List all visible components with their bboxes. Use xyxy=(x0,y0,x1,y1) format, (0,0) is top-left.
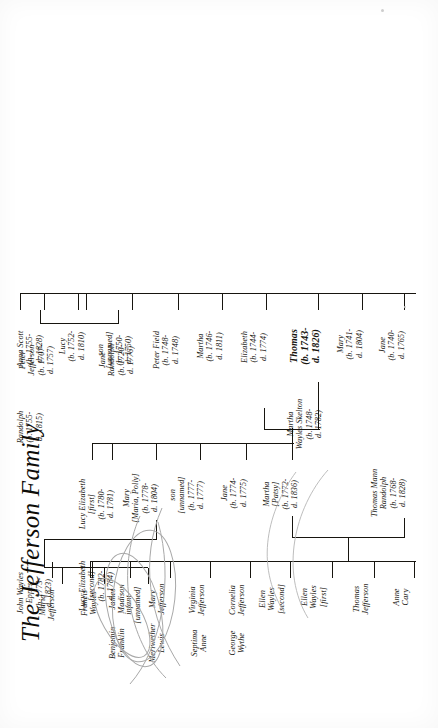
node-g2-thomas: Thomas (b. 1743- d. 1826) xyxy=(288,312,321,380)
marriage-stub-martha-wayles xyxy=(264,408,265,430)
scan-speck-2 xyxy=(404,306,406,308)
node-g3-jane: Jane (b. 1774- d. 1775) xyxy=(220,460,248,526)
node-g4r-ellen-wayles-second: Ellen Wayles [second] xyxy=(258,574,286,624)
scan-speck xyxy=(381,9,384,12)
sibling-spine-g4-randolph xyxy=(90,561,416,562)
tick-g4r-cornelia-jefferson xyxy=(250,562,251,578)
node-g2-anna-scott: Anna Scott (b. 1755- d. 1828) xyxy=(16,312,44,386)
node-g4e-infant: infant [unnamed] xyxy=(124,578,143,632)
tick-g3-jane xyxy=(246,444,247,460)
tick-g4r-ellen-wayles-second xyxy=(290,562,291,578)
tick-g3-lucy-elizabeth-second xyxy=(92,444,93,460)
node-g4r-meriwether-lewis: Meriwether Lewis xyxy=(148,614,167,672)
tick-g4r-thomas-jefferson xyxy=(374,562,375,578)
tick-g4r-james-madison xyxy=(130,562,131,578)
tick-g4r-septima-anne xyxy=(90,562,91,578)
node-g2-martha: Martha (b. 1746- d. 1811) xyxy=(196,312,224,380)
tick-g4r-meriwether-lewis xyxy=(52,562,53,578)
node-g3-martha-patsy: Martha [Patsy] (b. 1772- d. 1836) xyxy=(262,458,300,530)
sibling-spine-g2 xyxy=(20,293,416,294)
tick-g2-mary xyxy=(362,294,363,310)
node-g4e-francis-wayles: Francis Wayles xyxy=(80,578,99,628)
tick-g2-thomas xyxy=(318,294,319,310)
node-g2-son-unnamed: son [unnamed] (b. 1750- d. 1750) xyxy=(96,312,134,388)
marriage-drop-patsy-randolph xyxy=(348,538,349,562)
node-g2-peter-field: Peter Field (b. 1748- d. 1748) xyxy=(152,312,180,388)
tick-g4r-mary-jefferson xyxy=(170,562,171,578)
marriage-drop-g1 xyxy=(78,294,79,310)
marriage-stub-mary xyxy=(156,520,157,540)
node-thomas-mann-randolph: Thomas Mann Randolph (b. 1768- d. 1828) xyxy=(370,454,408,532)
tick-g2-son-unnamed xyxy=(132,294,133,310)
node-g4r-thomas-jefferson: Thomas Jefferson xyxy=(352,574,371,624)
family-tree-page: The Jefferson Family Peter Jefferson (b.… xyxy=(0,0,438,728)
tick-g4e-maria-jefferson xyxy=(62,568,63,584)
marriage-stub-tmr xyxy=(404,518,405,538)
tick-g2-randolph xyxy=(20,294,21,310)
node-g3-mary-maria-polly: Mary [Maria, Polly] (b. 1778- d. 1804) xyxy=(122,458,160,538)
node-g4e-maria-jefferson: Maria Jefferson xyxy=(38,578,57,632)
node-g2-jane: Jane (b. 1740- d. 1765) xyxy=(378,312,406,378)
tick-g4r-ellen-wayles-first xyxy=(332,562,333,578)
marriage-drop-thomas-martha xyxy=(292,428,293,444)
tick-g2-lucy xyxy=(86,294,87,310)
sibling-spine-g4-eppes xyxy=(44,567,148,568)
tick-g4e-francis-wayles xyxy=(104,568,105,584)
tick-g4r-anne-cary xyxy=(414,562,415,578)
spine-join-eppes xyxy=(44,540,45,568)
marriage-stub-patsy xyxy=(292,516,293,538)
tick-g2-martha xyxy=(222,294,223,310)
sibling-spine-g3 xyxy=(92,443,294,444)
node-g4r-anne-cary: Anne Cary xyxy=(392,574,411,620)
node-g3-lucy-elizabeth-first: Lucy Elizabeth [first] (b. 1780- d. 1781… xyxy=(78,458,116,550)
marriage-connector-mary-eppes xyxy=(44,539,156,540)
node-g2-elizabeth: Elizabeth (b. 1744- d. 1774) xyxy=(240,312,268,382)
tick-g2-elizabeth xyxy=(266,294,267,310)
node-g4r-george-wythe: George Wythe xyxy=(228,616,247,670)
tick-g4r-virginia-jefferson xyxy=(210,562,211,578)
node-g2-lucy: Lucy (b. 1752- d. 1810) xyxy=(58,312,86,380)
node-g4r-septima-anne: Septima Anne xyxy=(190,616,209,670)
node-g4r-benjamin-franklin: Benjamin Franklin xyxy=(108,614,127,672)
tick-g4r-benjamin-franklin xyxy=(92,562,93,578)
tick-g2-peter-field xyxy=(178,294,179,310)
node-g3-son-unnamed: son [unnamed] (b. 1777- d. 1777) xyxy=(168,458,206,532)
node-g2-randolph: Randolph (b. 1755- d. 1815) xyxy=(16,392,44,462)
marriage-stub-thomas xyxy=(318,382,319,430)
node-g2-mary: Mary (b. 1741- d. 1804) xyxy=(336,312,364,376)
tick-g2-anna-scott xyxy=(44,294,45,310)
node-g4r-ellen-wayles-first: Ellen Wayles [first] xyxy=(300,574,328,620)
